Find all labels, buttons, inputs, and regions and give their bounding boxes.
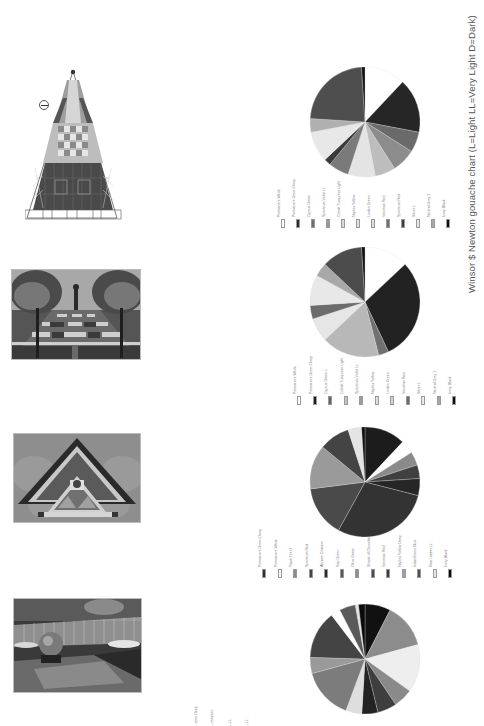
legend-swatch: [402, 569, 406, 578]
legend-label: Sap Green: [336, 550, 340, 567]
legend-swatch: [296, 219, 300, 228]
legend-label: Spectrum Violet LL: [322, 187, 326, 217]
legend-swatch: [309, 569, 313, 578]
legend-label: Ivory Black: [448, 376, 452, 394]
figure-caption: Winsor $ Newton gouache chart (L=Light L…: [466, 15, 477, 293]
legend-swatch: [417, 569, 421, 578]
legend-label: Neutral Grey 1: [427, 194, 431, 217]
legend-swatch: [446, 219, 450, 228]
pie-chart-2: [300, 237, 430, 367]
legend-label: Cyprus Green: [307, 195, 311, 217]
legend-swatch: [371, 219, 375, 228]
legend-chart-2: Permanent WhitePermanent Green DeepCypru…: [293, 362, 473, 407]
legend-label: Naples Yellow Deep: [398, 535, 402, 567]
legend-swatch: [371, 569, 375, 578]
legend-label: Ivory Black: [444, 549, 448, 567]
legend-label: Silver L: [417, 382, 421, 394]
plan-drawing-svg: [25, 68, 125, 223]
legend-label: Ivory Black: [442, 199, 446, 217]
legend-swatch: [433, 569, 437, 578]
legend-label: Shade of Chocolate: [367, 535, 371, 567]
legend-label: Spectrum Red: [305, 544, 309, 567]
legend-swatch: [293, 569, 297, 578]
legend-label: Spectrum Violet LL: [355, 364, 359, 394]
legend-swatch: [340, 569, 344, 578]
plan-drawing: [25, 68, 125, 223]
legend-swatch: [278, 569, 282, 578]
legend-swatch: [297, 396, 301, 405]
legend-label: Permanent White: [293, 366, 297, 394]
legend-label: Alizarin Crimson: [320, 541, 324, 567]
legend-label: Neutral Grey 1: [433, 371, 437, 394]
photo-triangular-gable: [13, 433, 141, 523]
pie-slice: [310, 67, 365, 122]
legend-label: Linden Green: [367, 195, 371, 217]
legend-swatch: [328, 396, 332, 405]
legend-swatch: [437, 396, 441, 405]
legend-swatch: [390, 396, 394, 405]
legend-label: Naples Yellow: [371, 372, 375, 394]
legend-label: Flash Tint D: [289, 548, 293, 567]
legend-swatch: [313, 396, 317, 405]
legend-swatch: [421, 396, 425, 405]
legend-label: Olive Green: [351, 548, 355, 567]
legend-swatch: [326, 219, 330, 228]
legend-label: Indanthrene Blue: [413, 540, 417, 567]
photo-garden-trees: [11, 269, 141, 360]
legend-label: Permanent White: [274, 539, 278, 567]
legend-swatch: [341, 219, 345, 228]
legend-swatch: [431, 219, 435, 228]
legend-swatch: [262, 569, 266, 578]
legend-label: Permanent White: [277, 189, 281, 217]
legend-label: Permanent Green Deep: [258, 529, 262, 567]
legend-label: Spectrum Red: [397, 194, 401, 217]
legend-label: Venetian Red: [382, 545, 386, 567]
legend-swatch: [324, 569, 328, 578]
legend-swatch: [386, 219, 390, 228]
legend-label: Naples Yellow: [352, 195, 356, 217]
legend-label: Cobalt Turquoise Light: [340, 358, 344, 394]
legend-swatch: [344, 396, 348, 405]
legend-fragment: ...reen Deep: [194, 706, 198, 726]
legend-swatch: [452, 396, 456, 405]
legend-swatch: [359, 396, 363, 405]
legend-chart-1: Permanent WhitePermanent Green DeepCypru…: [277, 160, 457, 230]
legend-label: Linden Green: [386, 372, 390, 394]
legend-label: Venetian Red: [382, 195, 386, 217]
legend-swatch: [406, 396, 410, 405]
legend-swatch: [401, 219, 405, 228]
legend-label: Silver L: [412, 205, 416, 217]
legend-swatch: [281, 219, 285, 228]
legend-fragment: ...LL: [228, 719, 232, 726]
legend-fragment: ...ontains L: [210, 708, 214, 726]
legend-label: Permanent Green Deep: [309, 356, 313, 394]
photo-sphere-fountain: [13, 598, 142, 693]
legend-label: Cyprus Green L: [324, 369, 328, 394]
north-arrow-icon: [39, 100, 49, 110]
legend-swatch: [311, 219, 315, 228]
legend-chart-4-partial: ...reen Deep ...ontains L ...LL ...LL: [190, 700, 440, 726]
legend-swatch: [375, 396, 379, 405]
legend-chart-3: Permanent Green DeepPermanent WhiteFlash…: [258, 520, 468, 580]
legend-label: Venetian Red: [402, 372, 406, 394]
legend-label: Raw Umber LL: [429, 543, 433, 567]
legend-swatch: [386, 569, 390, 578]
legend-swatch: [356, 219, 360, 228]
legend-swatch: [416, 219, 420, 228]
legend-swatch: [355, 569, 359, 578]
legend-label: Permanent Green Deep: [292, 179, 296, 217]
legend-swatch: [448, 569, 452, 578]
legend-label: Cobalt Turquoise Light: [337, 181, 341, 217]
legend-fragment: ...LL: [245, 719, 249, 726]
